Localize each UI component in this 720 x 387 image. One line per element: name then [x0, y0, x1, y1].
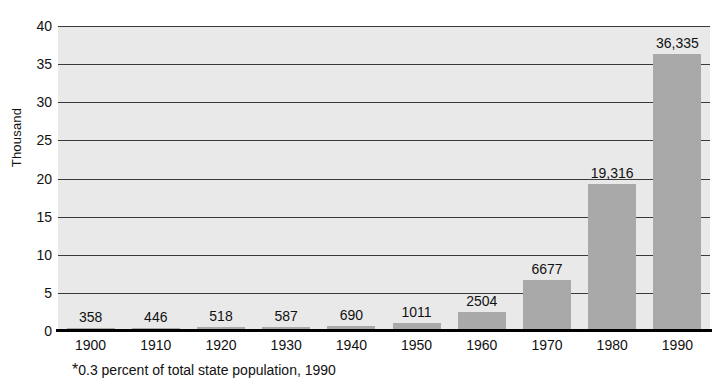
x-tick-label: 1970 — [512, 337, 582, 353]
x-tick-label: 1960 — [447, 337, 517, 353]
bar — [653, 54, 701, 331]
bar-value-label: 19,316 — [591, 165, 634, 181]
x-axis-baseline — [56, 329, 712, 332]
x-tick-label: 1900 — [56, 337, 126, 353]
x-tick-label: 1990 — [642, 337, 712, 353]
bar-value-label: 1011 — [402, 304, 432, 320]
bar — [588, 184, 636, 331]
bar-value-label: 6677 — [531, 261, 562, 277]
footnote-text: 0.3 percent of total state population, 1… — [78, 362, 336, 378]
bar-group: 6677 — [523, 26, 571, 331]
y-tick-label: 25 — [6, 132, 52, 148]
y-tick-label: 40 — [6, 18, 52, 34]
x-tick-label: 1930 — [251, 337, 321, 353]
bar-group: 358 — [67, 26, 115, 331]
y-tick-label: 35 — [6, 56, 52, 72]
bar-group: 1011 — [393, 26, 441, 331]
y-tick-label: 20 — [6, 171, 52, 187]
bar-group: 518 — [197, 26, 245, 331]
bar-value-label: 690 — [340, 307, 363, 323]
footnote: *0.3 percent of total state population, … — [72, 362, 336, 378]
bar — [523, 280, 571, 331]
bar-group: 2504 — [458, 26, 506, 331]
x-tick-label: 1940 — [316, 337, 386, 353]
bar-value-label: 2504 — [466, 293, 497, 309]
bar-value-label: 446 — [144, 309, 167, 325]
bar-value-label: 358 — [79, 309, 102, 325]
y-tick-label: 10 — [6, 247, 52, 263]
y-tick-label: 0 — [6, 323, 52, 339]
bar-group: 690 — [327, 26, 375, 331]
x-tick-label: 1920 — [186, 337, 256, 353]
x-tick-label: 1980 — [577, 337, 647, 353]
bar-value-label: 36,335 — [656, 35, 699, 51]
y-tick-label: 5 — [6, 285, 52, 301]
bar-group: 446 — [132, 26, 180, 331]
y-tick-label: 30 — [6, 94, 52, 110]
y-tick-label: 15 — [6, 209, 52, 225]
bar-chart-figure: Thousand 0510152025303540 35844651858769… — [0, 0, 720, 387]
plot-area: 35844651858769010112504667719,31636,335 — [58, 26, 710, 331]
bar-group: 19,316 — [588, 26, 636, 331]
y-axis-tick-labels: 0510152025303540 — [0, 26, 52, 331]
bar-group: 36,335 — [653, 26, 701, 331]
x-tick-label: 1910 — [121, 337, 191, 353]
bar-value-label: 587 — [275, 308, 298, 324]
bar-value-label: 518 — [209, 308, 232, 324]
bar-group: 587 — [262, 26, 310, 331]
x-tick-label: 1950 — [382, 337, 452, 353]
